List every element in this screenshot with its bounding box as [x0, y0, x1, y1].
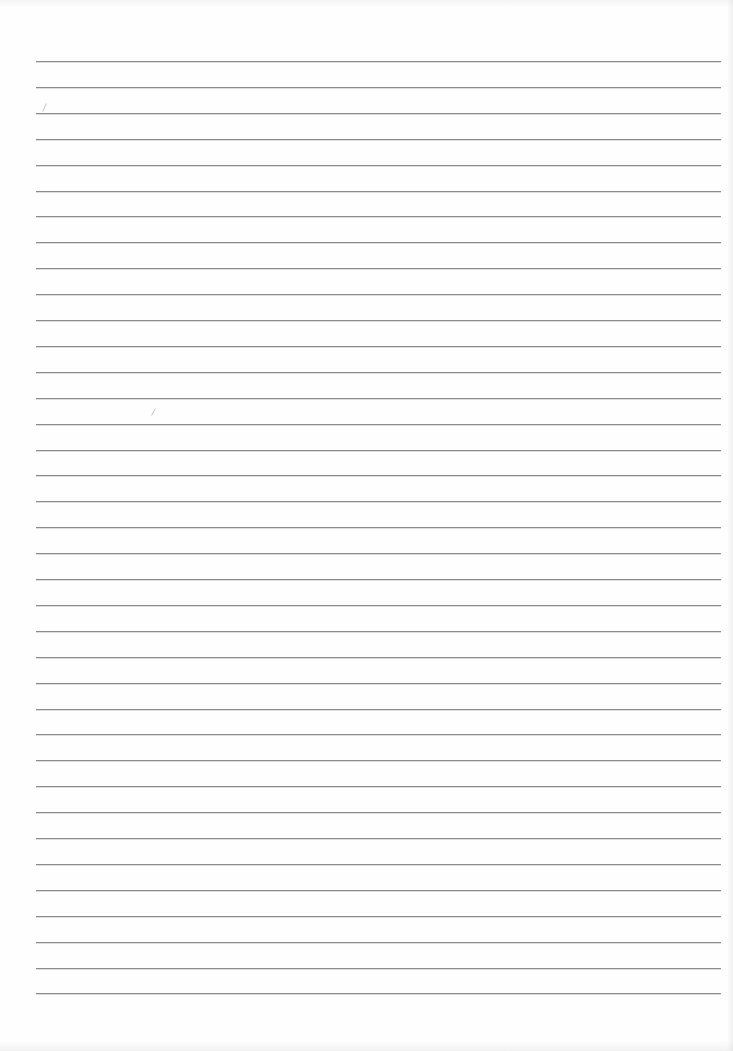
ruled-line — [36, 113, 721, 114]
ruled-line — [36, 864, 721, 865]
ruled-line — [36, 760, 721, 761]
ruled-line — [36, 734, 721, 735]
ruled-line — [36, 812, 721, 813]
ruled-line — [36, 709, 721, 710]
ruled-line — [36, 61, 721, 62]
ruled-line — [36, 916, 721, 917]
ruled-line — [36, 268, 721, 269]
ruled-line — [36, 87, 721, 88]
ruled-line — [36, 993, 721, 994]
scan-shadow-bottom — [0, 1041, 733, 1051]
ruled-line — [36, 579, 721, 580]
ruled-line — [36, 242, 721, 243]
ruled-line — [36, 838, 721, 839]
ruled-line — [36, 786, 721, 787]
ruled-line — [36, 631, 721, 632]
ruled-line — [36, 294, 721, 295]
ruled-line — [36, 320, 721, 321]
ruled-line — [36, 165, 721, 166]
ruled-line — [36, 553, 721, 554]
ruled-line — [36, 398, 721, 399]
scan-shadow-top — [0, 0, 733, 8]
ruled-line — [36, 683, 721, 684]
scan-shadow-right — [727, 0, 733, 1051]
ruled-line — [36, 942, 721, 943]
lined-paper-page — [0, 0, 733, 1051]
ruled-line — [36, 475, 721, 476]
ruled-line — [36, 346, 721, 347]
pencil-mark — [42, 103, 47, 112]
pencil-mark — [151, 408, 156, 415]
ruled-line — [36, 191, 721, 192]
ruled-line — [36, 657, 721, 658]
ruled-line — [36, 527, 721, 528]
ruled-line — [36, 450, 721, 451]
ruled-line — [36, 890, 721, 891]
ruled-line — [36, 424, 721, 425]
ruled-line — [36, 216, 721, 217]
ruled-line — [36, 501, 721, 502]
ruled-line — [36, 968, 721, 969]
ruled-line — [36, 372, 721, 373]
ruled-line — [36, 605, 721, 606]
ruled-line — [36, 139, 721, 140]
